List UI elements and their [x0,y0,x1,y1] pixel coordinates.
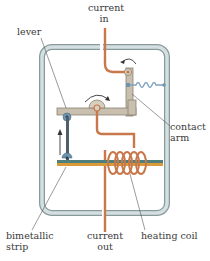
label-lever: lever [17,26,41,37]
circuit-breaker-diagram: current in lever contact arm bimetallic … [0,0,210,261]
label-current-out-line1: current [86,230,124,241]
label-current-out: current out [86,230,124,252]
label-current-in: current in [88,2,120,24]
label-current-in-line2: in [88,13,120,24]
label-contact-arm-line2: arm [170,132,206,143]
spring [130,83,163,88]
label-contact-arm-line1: contact [170,121,206,132]
label-bimetallic-line1: bimetallic [6,230,54,241]
label-current-out-line2: out [86,241,124,252]
label-heating-coil: heating coil [141,230,198,241]
label-bimetallic-strip: bimetallic strip [6,230,54,252]
bimetallic-strip [57,160,163,166]
connecting-rod [62,113,72,160]
label-bimetallic-line2: strip [6,241,54,252]
current-out-wire [97,111,134,148]
label-contact-arm: contact arm [170,121,206,143]
label-current-in-line1: current [88,2,120,13]
